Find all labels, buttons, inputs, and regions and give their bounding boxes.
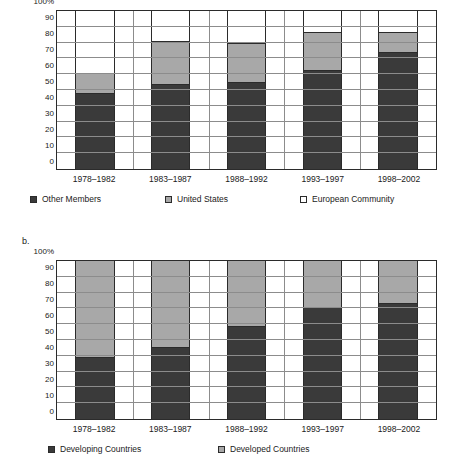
category-divider (360, 11, 361, 169)
bar-slot (57, 11, 133, 169)
stacked-bar (151, 261, 190, 419)
bar-segment (76, 357, 113, 419)
y-tick-label: 10 (45, 392, 54, 400)
gridline (57, 73, 436, 74)
gridline (57, 292, 436, 293)
gridline (57, 42, 436, 43)
x-axis-labels-b: 1978–19821983–19871988–19921993–19971998… (56, 424, 437, 434)
x-tick-label: 1988–1992 (208, 424, 284, 434)
bar-series-a (57, 11, 436, 169)
y-tick-label: 30 (45, 110, 54, 118)
gridline (57, 121, 436, 122)
y-tick-label: 60 (45, 312, 54, 320)
gridline (57, 276, 436, 277)
chart-panel-a: 0102030405060708090100% 1978–19821983–19… (0, 0, 455, 234)
y-tick-label: 70 (45, 296, 54, 304)
category-divider (209, 261, 210, 419)
category-divider (360, 261, 361, 419)
stacked-bar (303, 11, 342, 169)
bar-segment (304, 261, 341, 307)
bar-segment (228, 11, 265, 43)
bar-slot (360, 261, 436, 419)
gridline (57, 57, 436, 58)
bar-segment (228, 82, 265, 169)
bar-slot (284, 11, 360, 169)
gridline (57, 339, 436, 340)
bar-slot (133, 11, 209, 169)
plot-box-a (56, 10, 437, 170)
gridline (57, 105, 436, 106)
bar-slot (284, 261, 360, 419)
stacked-bar (378, 261, 417, 419)
legend-a: Other MembersUnited StatesEuropean Commu… (30, 194, 435, 204)
y-tick-label: 80 (45, 280, 54, 288)
stacked-bar (378, 11, 417, 169)
bar-segment (228, 261, 265, 326)
stacked-bar (75, 11, 114, 169)
x-tick-label: 1983–1987 (132, 174, 208, 184)
bar-slot (209, 261, 285, 419)
bar-segment (76, 73, 113, 94)
stacked-bar (227, 11, 266, 169)
bar-segment (152, 347, 189, 419)
plot-area-b: 0102030405060708090100% (22, 260, 437, 420)
legend-label: European Community (312, 194, 394, 204)
bar-segment (304, 32, 341, 70)
legend-b: Developing CountriesDeveloped Countries (48, 444, 388, 454)
x-tick-label: 1978–1982 (56, 174, 132, 184)
y-tick-label: 70 (45, 46, 54, 54)
bar-segment (304, 11, 341, 32)
y-tick-label: 20 (45, 126, 54, 134)
y-tick-label: 90 (45, 14, 54, 22)
y-tick-label: 50 (45, 78, 54, 86)
legend-label: Developing Countries (60, 444, 141, 454)
bar-segment (379, 11, 416, 32)
bar-slot (360, 11, 436, 169)
bar-segment (152, 84, 189, 169)
x-tick-label: 1978–1982 (56, 424, 132, 434)
legend-item: European Community (300, 194, 435, 204)
gridline (57, 323, 436, 324)
bar-segment (228, 43, 265, 83)
category-divider (209, 11, 210, 169)
stacked-bar (151, 11, 190, 169)
y-tick-label: 30 (45, 360, 54, 368)
bar-segment (152, 41, 189, 84)
y-tick-label: 0 (50, 158, 54, 166)
y-tick-label: 0 (50, 408, 54, 416)
bar-segment (379, 261, 416, 303)
legend-swatch-icon (300, 196, 307, 203)
bar-slot (133, 261, 209, 419)
y-tick-label: 100% (34, 0, 54, 6)
category-divider (284, 11, 285, 169)
legend-label: Other Members (42, 194, 101, 204)
gridline (57, 89, 436, 90)
x-tick-label: 1993–1997 (285, 174, 361, 184)
gridline (57, 355, 436, 356)
legend-item: Developed Countries (218, 444, 388, 454)
y-tick-label: 80 (45, 30, 54, 38)
legend-item: Other Members (30, 194, 165, 204)
bar-series-b (57, 261, 436, 419)
y-tick-label: 100% (34, 248, 54, 256)
gridline (57, 307, 436, 308)
x-axis-labels-a: 1978–19821983–19871988–19921993–19971998… (56, 174, 437, 184)
x-tick-label: 1993–1997 (285, 424, 361, 434)
category-divider (133, 261, 134, 419)
y-tick-label: 50 (45, 328, 54, 336)
y-tick-label: 40 (45, 344, 54, 352)
stacked-bar (303, 261, 342, 419)
legend-item: Developing Countries (48, 444, 218, 454)
gridline (57, 386, 436, 387)
legend-item: United States (165, 194, 300, 204)
legend-swatch-icon (165, 196, 172, 203)
y-tick-label: 40 (45, 94, 54, 102)
legend-label: United States (177, 194, 228, 204)
bar-slot (57, 261, 133, 419)
category-divider (133, 11, 134, 169)
x-tick-label: 1998–2002 (361, 424, 437, 434)
stacked-bar (75, 261, 114, 419)
chart-panel-b: b. 0102030405060708090100% 1978–19821983… (0, 234, 455, 468)
legend-swatch-icon (30, 196, 37, 203)
plot-box-b (56, 260, 437, 420)
